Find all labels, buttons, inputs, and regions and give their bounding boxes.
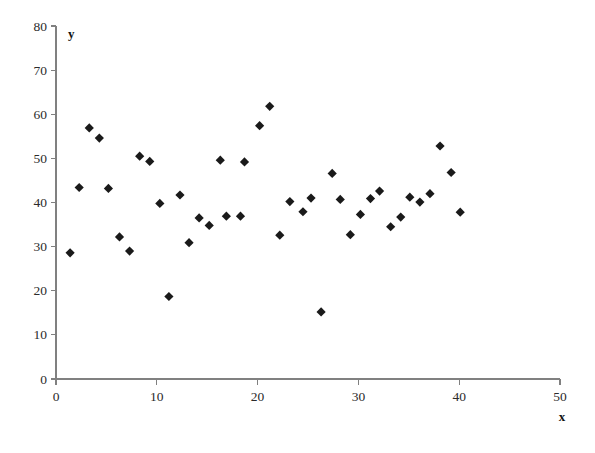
data-point — [255, 121, 264, 130]
data-point — [336, 195, 345, 204]
x-tick-label: 10 — [150, 389, 164, 404]
x-tick-label: 30 — [352, 389, 366, 404]
y-axis-title: y — [68, 26, 75, 41]
data-point — [195, 213, 204, 222]
data-point — [236, 212, 245, 221]
y-tick-label: 40 — [34, 195, 48, 210]
x-tick-label: 50 — [553, 389, 567, 404]
y-tick-label: 10 — [34, 327, 48, 342]
data-point — [164, 292, 173, 301]
data-point — [317, 307, 326, 316]
data-point — [447, 168, 456, 177]
data-point — [145, 157, 154, 166]
data-point — [135, 152, 144, 161]
data-point — [175, 190, 184, 199]
x-axis-title: x — [559, 409, 566, 424]
data-point-layer — [66, 102, 465, 317]
data-point — [366, 194, 375, 203]
chart-plot-area: 01020304050607080 01020304050 yx — [0, 0, 595, 453]
y-tick-label: 50 — [34, 151, 48, 166]
data-point — [275, 231, 284, 240]
x-tick-label: 20 — [251, 389, 265, 404]
data-point — [205, 221, 214, 230]
data-point — [125, 246, 134, 255]
data-point — [104, 184, 113, 193]
y-tick-label: 60 — [34, 107, 48, 122]
y-tick-label: 80 — [34, 19, 48, 34]
data-point — [425, 189, 434, 198]
data-point — [66, 248, 75, 257]
y-axis: 01020304050607080 — [34, 19, 57, 387]
data-point — [386, 222, 395, 231]
data-point — [306, 193, 315, 202]
axis-title-layer: yx — [68, 26, 566, 424]
scatter-chart-figure: 01020304050607080 01020304050 yx — [0, 0, 595, 453]
data-point — [95, 133, 104, 142]
data-point — [285, 197, 294, 206]
x-tick-label: 0 — [53, 389, 60, 404]
y-tick-label: 30 — [34, 239, 48, 254]
data-point — [405, 193, 414, 202]
data-point — [456, 208, 465, 217]
data-point — [216, 156, 225, 165]
data-point — [356, 210, 365, 219]
y-tick-label: 0 — [40, 372, 47, 387]
data-point — [155, 199, 164, 208]
data-point — [222, 212, 231, 221]
data-point — [375, 186, 384, 195]
data-point — [265, 102, 274, 111]
data-point — [435, 141, 444, 150]
data-point — [240, 157, 249, 166]
data-point — [75, 183, 84, 192]
data-point — [346, 230, 355, 239]
x-axis: 01020304050 — [53, 379, 567, 404]
data-point — [298, 207, 307, 216]
data-point — [328, 169, 337, 178]
y-tick-label: 70 — [34, 63, 48, 78]
data-point — [396, 212, 405, 221]
x-tick-label: 40 — [452, 389, 466, 404]
data-point — [184, 238, 193, 247]
data-point — [85, 123, 94, 132]
y-tick-label: 20 — [34, 283, 48, 298]
data-point — [415, 197, 424, 206]
data-point — [115, 232, 124, 241]
